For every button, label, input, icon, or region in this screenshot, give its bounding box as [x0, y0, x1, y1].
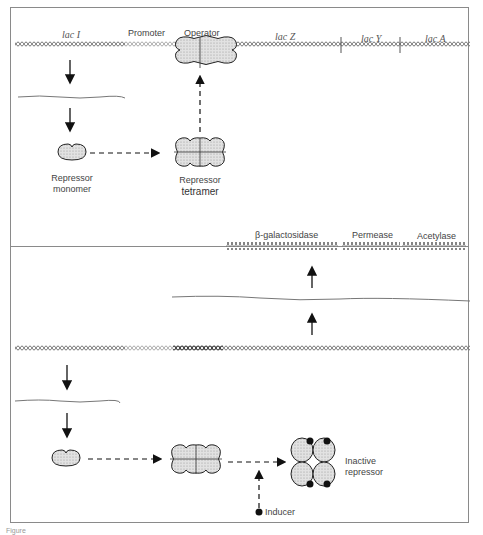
label-line-2: tetramer	[177, 186, 223, 197]
dna-bottom	[15, 343, 470, 351]
dna-top	[15, 37, 470, 53]
repressor-bound-operator	[176, 36, 237, 69]
mrna-laci-top	[18, 96, 125, 98]
repressor-tetramer-bottom	[170, 445, 222, 474]
label-promoter: Promoter	[128, 28, 165, 39]
mrna-polycistronic	[172, 296, 470, 301]
label-lac-i: lac I	[62, 29, 80, 40]
protein-chains	[226, 242, 466, 250]
label-inactive-repressor: Inactive repressor	[345, 456, 383, 478]
label-lac-a: lac A	[425, 33, 446, 44]
figure-caption: Figure	[6, 527, 26, 534]
label-operator: Operator	[184, 28, 220, 39]
label-line-2: monomer	[50, 184, 94, 195]
label-line-1: Repressor	[50, 173, 94, 184]
label-line-1: Inactive	[345, 456, 383, 467]
repressor-tetramer	[174, 138, 226, 167]
inactive-repressor	[291, 438, 335, 488]
label-lac-z: lac Z	[275, 31, 295, 42]
lac-operon-diagram	[0, 0, 483, 535]
label-lac-y: lac Y	[361, 33, 381, 44]
repressor-monomer	[58, 144, 86, 160]
mrna-laci-bottom	[15, 400, 120, 403]
label-permease: Permease	[352, 230, 393, 241]
label-inducer: Inducer	[265, 507, 295, 518]
label-line-2: repressor	[345, 467, 383, 478]
inducer-molecule	[256, 509, 263, 516]
repressor-monomer-bottom	[52, 450, 80, 466]
label-acetylase: Acetylase	[417, 231, 456, 242]
label-line-1: Repressor	[177, 175, 223, 186]
label-repressor-tetramer: Repressor tetramer	[177, 175, 223, 197]
label-beta-galactosidase: β-galactosidase	[255, 230, 318, 241]
label-repressor-monomer: Repressor monomer	[50, 173, 94, 195]
